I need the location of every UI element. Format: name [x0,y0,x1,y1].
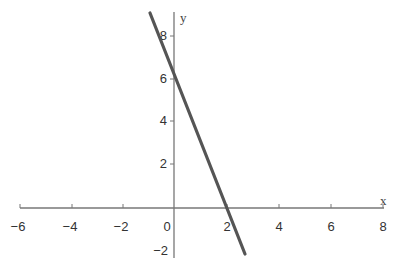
x-tick-label: −6 [11,219,26,234]
x-tick-label: 8 [379,219,386,234]
x-tick-labels: −6 −4 −2 0 2 4 6 8 [11,219,387,234]
x-tick-label: 0 [163,219,170,234]
x-tick-label: 2 [223,219,230,234]
x-tick-label: −4 [63,219,78,234]
chart: −6 −4 −2 0 2 4 6 8 8 6 4 2 −2 y x [0,0,394,265]
x-tick-label: 6 [327,219,334,234]
x-tick-label: 4 [275,219,282,234]
y-tick-label: 2 [160,156,167,171]
x-axis-label: x [380,193,387,208]
y-tick-label: 4 [160,113,167,128]
y-axis-label: y [180,10,187,25]
y-tick-label: −2 [153,243,168,258]
y-tick-label: 6 [160,71,167,86]
line-series [150,13,245,254]
x-tick-label: −2 [114,219,129,234]
